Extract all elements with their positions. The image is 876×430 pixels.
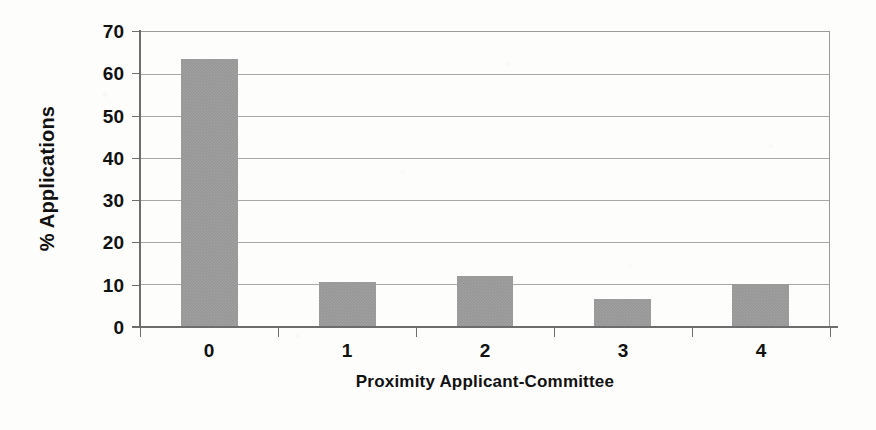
gridline-50 bbox=[141, 116, 829, 117]
x-tick-label-0: 0 bbox=[179, 341, 239, 360]
bar-category-1[interactable] bbox=[319, 282, 376, 326]
x-axis-line bbox=[132, 326, 838, 328]
x-tick-mark-3 bbox=[554, 327, 555, 337]
x-tick-mark-0 bbox=[140, 327, 141, 337]
bar-category-3[interactable] bbox=[594, 299, 651, 326]
bar-category-2[interactable] bbox=[457, 276, 514, 326]
bar-category-4[interactable] bbox=[732, 284, 789, 326]
x-tick-mark-5 bbox=[830, 327, 831, 337]
gridline-30 bbox=[141, 200, 829, 201]
y-tick-label-30: 30 bbox=[76, 191, 124, 210]
y-tick-mark-40 bbox=[132, 158, 141, 159]
bar-category-0[interactable] bbox=[181, 59, 238, 326]
y-tick-mark-60 bbox=[132, 73, 141, 74]
y-tick-label-10: 10 bbox=[76, 276, 124, 295]
y-tick-label-50: 50 bbox=[76, 107, 124, 126]
gridline-20 bbox=[141, 242, 829, 243]
y-tick-label-60: 60 bbox=[76, 64, 124, 83]
x-tick-label-1: 1 bbox=[317, 341, 377, 360]
y-tick-label-0: 0 bbox=[76, 318, 124, 337]
x-tick-mark-1 bbox=[278, 327, 279, 337]
x-tick-label-4: 4 bbox=[731, 341, 791, 360]
gridline-60 bbox=[141, 74, 829, 75]
y-tick-mark-30 bbox=[132, 200, 141, 201]
y-tick-label-20: 20 bbox=[76, 233, 124, 252]
y-tick-mark-20 bbox=[132, 242, 141, 243]
plot-area bbox=[140, 31, 830, 327]
x-tick-mark-2 bbox=[416, 327, 417, 337]
y-tick-mark-50 bbox=[132, 116, 141, 117]
y-tick-mark-10 bbox=[132, 285, 141, 286]
y-tick-label-40: 40 bbox=[76, 149, 124, 168]
x-tick-label-3: 3 bbox=[593, 341, 653, 360]
y-tick-label-70: 70 bbox=[76, 22, 124, 41]
gridline-40 bbox=[141, 158, 829, 159]
x-tick-label-2: 2 bbox=[455, 341, 515, 360]
bar-chart: % Applications 0 10 20 30 40 50 60 70 0 … bbox=[0, 0, 876, 430]
y-axis-title: % Applications bbox=[30, 30, 64, 327]
x-tick-mark-4 bbox=[692, 327, 693, 337]
y-axis-line bbox=[139, 30, 141, 328]
y-tick-mark-70 bbox=[132, 31, 141, 32]
x-axis-title: Proximity Applicant-Committee bbox=[140, 372, 830, 392]
